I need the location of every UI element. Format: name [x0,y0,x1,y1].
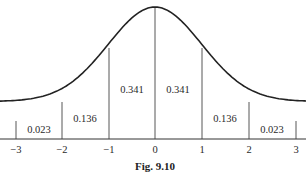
x-tick-labels: −3 −2 −1 0 1 2 3 [10,144,298,155]
tick-label: −1 [103,144,114,155]
region-label-1-2: 0.136 [213,113,237,124]
tick-label: −2 [56,144,67,155]
region-labels: 0.023 0.136 0.341 0.341 0.136 0.023 [27,84,284,135]
bell-curve [0,7,306,101]
region-label-minus1-0: 0.341 [120,84,144,95]
tick-label: 2 [246,144,251,155]
region-label-minus3-minus2: 0.023 [27,124,51,135]
figure-caption: Fig. 9.10 [135,160,176,172]
tick-label: −3 [10,144,21,155]
region-label-2-3: 0.023 [260,124,284,135]
region-label-0-1: 0.341 [166,84,190,95]
tick-label: 0 [152,144,157,155]
normal-distribution-figure: 0.023 0.136 0.341 0.341 0.136 0.023 −3 −… [0,0,306,172]
tick-label: 1 [199,144,204,155]
tick-label: 3 [293,144,298,155]
region-label-minus2-minus1: 0.136 [73,113,97,124]
sigma-dividers [16,7,296,139]
